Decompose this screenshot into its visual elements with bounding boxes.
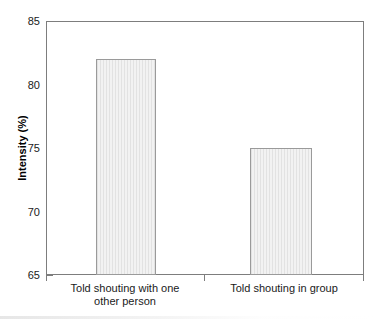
x-tick-mark-right (363, 275, 364, 281)
y-tick-label-70: 70 (0, 205, 40, 219)
y-tick-mark-65 (47, 275, 53, 276)
y-tick-label-80: 80 (0, 78, 40, 92)
x-category-label-0: Told shouting with one other person (46, 282, 204, 308)
y-tick-label-75: 75 (0, 141, 40, 155)
bar-told-shouting-in-group (250, 148, 312, 275)
bar-chart: Intensity (%) 85 80 75 70 65 Told shouti… (0, 0, 376, 323)
x-tick-mark-middle (204, 275, 205, 281)
plot-area (46, 21, 364, 275)
bar-told-shouting-with-one-other-person (96, 59, 156, 275)
x-tick-mark-left (46, 275, 47, 281)
scan-artifact (0, 316, 376, 319)
y-tick-label-65: 65 (0, 268, 40, 282)
y-tick-label-85: 85 (0, 14, 40, 28)
x-category-label-1: Told shouting in group (204, 282, 364, 295)
